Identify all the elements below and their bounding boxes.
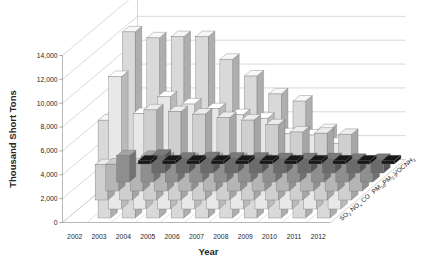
- bar-front-face: [309, 161, 322, 164]
- x-tick-label-2008: 2008: [213, 233, 228, 240]
- bar-front-face: [138, 161, 151, 164]
- bar-front-face: [382, 161, 395, 164]
- x-tick-label-2004: 2004: [116, 233, 131, 240]
- x-tick-label-2012: 2012: [311, 233, 326, 240]
- x-tick-label-2002: 2002: [67, 233, 82, 240]
- y-tick-label: 6,000: [40, 147, 57, 154]
- y-axis-title: Thousand Short Tons: [7, 90, 18, 187]
- x-tick-label-2006: 2006: [165, 233, 180, 240]
- y-tick-label: 12,000: [37, 76, 58, 83]
- bar-front-face: [117, 156, 130, 182]
- series-label-CO: CO: [359, 192, 371, 204]
- bar-front-face: [187, 161, 200, 164]
- y-tick-label: 4,000: [40, 171, 57, 178]
- bar-PM2.5-2002: [117, 150, 136, 182]
- y-tick-label: 0: [54, 219, 58, 226]
- bar-front-face: [211, 161, 224, 164]
- bar-front-face: [235, 161, 248, 164]
- emissions-3d-column-chart: 02,0004,0006,0008,00010,00012,00014,0002…: [0, 0, 444, 266]
- x-tick-label-2005: 2005: [140, 233, 155, 240]
- x-tick-label-2010: 2010: [262, 233, 277, 240]
- bar-front-face: [357, 161, 370, 164]
- y-tick-label: 8,000: [40, 123, 57, 130]
- chart-canvas: 02,0004,0006,0008,00010,00012,00014,0002…: [0, 0, 444, 266]
- bar-front-face: [284, 161, 297, 164]
- bar-front-face: [333, 161, 346, 164]
- bar-front-face: [260, 161, 273, 164]
- x-tick-label-2011: 2011: [287, 233, 302, 240]
- x-tick-label-2003: 2003: [91, 233, 106, 240]
- y-tick-label: 10,000: [37, 100, 58, 107]
- x-tick-label-2007: 2007: [189, 233, 204, 240]
- y-tick-label: 2,000: [40, 195, 57, 202]
- y-tick-label: 14,000: [37, 52, 58, 59]
- series-label-text: CO: [359, 192, 371, 204]
- series-label-subscript: 3: [412, 157, 418, 163]
- x-axis-title: Year: [198, 246, 218, 257]
- x-tick-label-2009: 2009: [238, 233, 253, 240]
- bar-front-face: [162, 161, 175, 164]
